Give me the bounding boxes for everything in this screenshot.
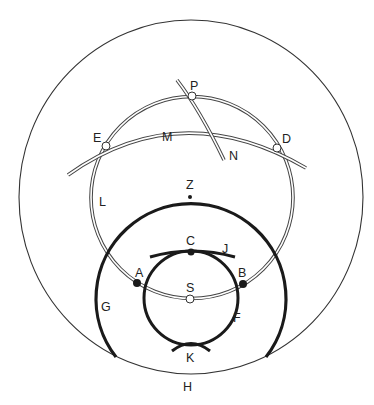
label-j: J [222,242,228,256]
point-b [239,280,247,288]
label-n: N [229,149,238,163]
label-g: G [101,300,111,314]
label-m: M [162,130,172,144]
point-p [188,92,196,100]
label-s: S [186,281,194,295]
label-p: P [190,79,198,93]
label-l: L [99,195,106,209]
point-c [188,249,195,256]
point-z [188,195,192,199]
diagram-canvas: P E D M N L Z C J A B S G F K H [0,0,374,405]
point-s [186,295,194,303]
arc-m [68,133,306,175]
label-h: H [183,380,192,394]
label-e: E [93,131,101,145]
point-a [133,279,141,287]
arc-n [177,80,224,160]
label-d: D [282,132,291,146]
label-a: A [135,266,144,280]
point-d [273,144,281,152]
label-k: K [186,351,195,365]
label-b: B [238,266,246,280]
label-z: Z [186,178,194,192]
circle-l [91,97,293,299]
point-e [102,142,110,150]
label-f: F [233,311,241,325]
label-c: C [186,234,195,248]
